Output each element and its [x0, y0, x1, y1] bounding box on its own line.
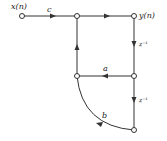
signal-flow-graph: x(n) c y(n) z⁻¹ z⁻¹ a b — [0, 0, 167, 141]
arrow-icon — [50, 14, 56, 19]
node-mid-right — [132, 74, 137, 79]
gain-b-label: b — [102, 112, 107, 120]
arrow-icon — [132, 97, 137, 103]
arrow-icon — [132, 41, 137, 47]
node-top-sum — [75, 14, 80, 19]
node-output — [132, 14, 137, 19]
gain-c-label: c — [47, 6, 51, 14]
delay-1-label: z⁻¹ — [139, 41, 148, 47]
node-bottom-right — [132, 128, 137, 133]
arrow-icon — [96, 122, 103, 127]
arrow-icon — [75, 44, 80, 50]
node-mid-left — [75, 74, 80, 79]
delay-2-label: z⁻¹ — [139, 97, 148, 103]
arrow-icon — [104, 14, 110, 19]
output-label: y(n) — [139, 12, 155, 20]
input-label: x(n) — [11, 3, 27, 11]
node-input — [20, 14, 25, 19]
arrow-icon — [102, 74, 108, 79]
edge-feedback-b — [77, 76, 134, 130]
graph-edges — [0, 0, 167, 141]
gain-a-label: a — [103, 65, 108, 73]
